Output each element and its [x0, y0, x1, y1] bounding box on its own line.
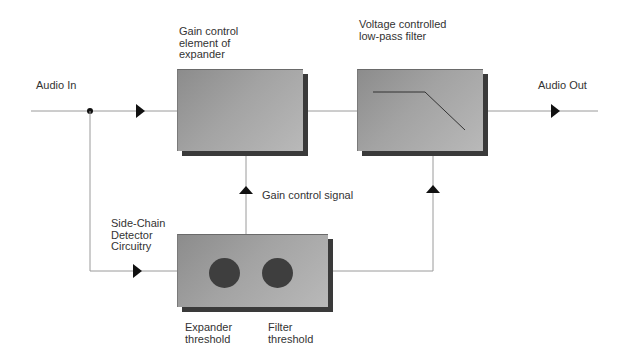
gain-element-label: Gain control element of expander	[179, 26, 238, 61]
filter-control-line	[327, 150, 433, 271]
arrow-right-icon	[133, 264, 142, 278]
expander-threshold-label: Expander threshold	[185, 322, 232, 345]
gain-control-element-box	[177, 69, 303, 151]
lowpass-curve-icon	[358, 70, 483, 151]
side-chain-label: Side-Chain Detector Circuitry	[111, 218, 165, 253]
signal-wires	[0, 0, 630, 362]
audio-in-label: Audio In	[36, 80, 76, 92]
arrow-up-icon	[426, 185, 440, 193]
audio-out-label: Audio Out	[538, 80, 587, 92]
arrow-right-icon	[136, 104, 145, 118]
arrow-right-icon	[551, 104, 560, 118]
filter-threshold-knob[interactable]	[262, 258, 293, 288]
vcf-box	[357, 69, 483, 151]
arrow-up-icon	[239, 186, 253, 194]
gain-control-signal-label: Gain control signal	[262, 190, 353, 202]
side-chain-detector-box	[177, 234, 328, 307]
filter-threshold-label: Filter threshold	[268, 322, 313, 345]
expander-threshold-knob[interactable]	[209, 258, 240, 288]
vcf-label: Voltage controlled low-pass filter	[359, 19, 446, 42]
